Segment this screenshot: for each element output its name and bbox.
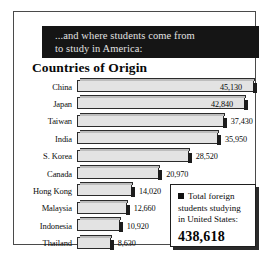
legend-box: Total foreign students studying in Unite… (170, 184, 256, 247)
subtitle-banner: ...and where students come from to study… (42, 26, 259, 58)
bar-value-label: 45,130 (220, 82, 242, 91)
bar (77, 202, 127, 214)
bar (77, 132, 218, 144)
bar-track: 28,520 (77, 148, 266, 165)
legend-line-3: in United States: (178, 214, 249, 226)
bar-category-label: S. Korea (32, 151, 77, 161)
bar (77, 167, 159, 179)
bar-value-label: 42,840 (211, 100, 233, 109)
bar-row: India35,950 (32, 130, 266, 147)
bar-value-label: 12,660 (134, 204, 156, 213)
bar-category-label: Hong Kong (32, 186, 77, 196)
chart-figure: ...and where students come from to study… (13, 11, 256, 245)
bar (77, 219, 120, 231)
bar-row: S. Korea28,520 (32, 148, 266, 165)
bar-category-label: India (32, 134, 77, 144)
bar-track: 45,130 (77, 78, 266, 95)
subtitle-line-2: to study in America: (55, 42, 259, 55)
bar-category-label: Canada (32, 169, 77, 179)
legend-line-2: students studying (178, 203, 249, 215)
bar-category-label: Malaysia (32, 203, 77, 213)
bar-value-label: 8,630 (118, 239, 136, 248)
bar-track: 37,430 (77, 113, 266, 130)
bar-row: Japan42,840 (32, 95, 266, 112)
bar-category-label: Thailand (32, 238, 77, 248)
bar-track: 20,970 (77, 165, 266, 182)
legend-line-1: Total foreign (188, 191, 235, 201)
bar (77, 150, 189, 162)
subtitle-line-1: ...and where students come from (55, 29, 259, 42)
bar-category-label: Indonesia (32, 221, 77, 231)
bar-category-label: Japan (32, 99, 77, 109)
legend-line-1-wrapper: Total foreign (178, 191, 249, 203)
bar-row: Canada20,970 (32, 165, 266, 182)
bar-value-label: 37,430 (231, 117, 253, 126)
bar (77, 115, 224, 127)
legend-square-icon (178, 193, 184, 199)
bar (77, 184, 132, 196)
bar-track: 42,840 (77, 95, 266, 112)
bar-value-label: 20,970 (166, 169, 188, 178)
bar-value-label: 28,520 (196, 152, 218, 161)
bar-row: China45,130 (32, 78, 266, 95)
bar-value-label: 10,920 (127, 221, 149, 230)
bar-row: Taiwan37,430 (32, 113, 266, 130)
bar-track: 35,950 (77, 130, 266, 147)
bar (77, 237, 111, 249)
chart-title: Countries of Origin (32, 60, 147, 76)
bar-category-label: China (32, 82, 77, 92)
legend-total-value: 438,618 (178, 229, 249, 245)
bar-category-label: Taiwan (32, 116, 77, 126)
bar-value-label: 14,020 (139, 187, 161, 196)
bar-value-label: 35,950 (225, 134, 247, 143)
